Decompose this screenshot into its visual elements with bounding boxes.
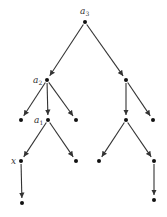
tree-node — [74, 159, 78, 163]
edge-arrow — [128, 122, 151, 156]
node-label: a3 — [80, 6, 89, 17]
node-label: a1 — [34, 115, 43, 126]
tree-node — [151, 118, 155, 122]
nodes: a3a2a1x — [11, 6, 156, 205]
edges — [21, 24, 154, 198]
tree-node — [124, 118, 128, 122]
edge-arrow — [47, 83, 48, 115]
edge-arrow — [102, 123, 125, 157]
node-label: a2 — [33, 75, 42, 86]
tree-node — [152, 159, 156, 163]
edge-arrow — [24, 83, 46, 116]
edge-arrow — [50, 25, 84, 76]
node-label: x — [11, 156, 16, 166]
tree-node — [19, 118, 23, 122]
edge-arrow — [128, 82, 151, 115]
tree-node — [124, 78, 128, 82]
tree-node — [97, 159, 101, 163]
edge-arrow — [87, 24, 123, 75]
tree-node — [19, 159, 23, 163]
tree-node — [46, 118, 50, 122]
edge-arrow — [24, 123, 47, 157]
tree-node — [74, 118, 78, 122]
tree-node — [45, 78, 49, 82]
tree-node — [152, 198, 156, 202]
edge-arrow — [50, 122, 73, 156]
edge-arrow — [49, 82, 73, 116]
tree-node — [83, 20, 87, 24]
edge-arrow — [21, 164, 22, 198]
tree-node — [20, 201, 24, 205]
tree-diagram: a3a2a1x — [0, 0, 167, 217]
